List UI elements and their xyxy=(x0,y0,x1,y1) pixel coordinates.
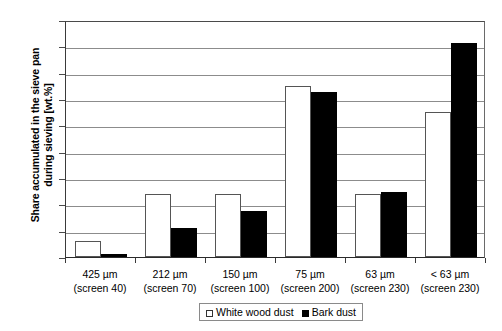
y-axis-title-line-1: Share accumulated in the sieve pan xyxy=(29,15,42,255)
legend-filled-square-icon xyxy=(302,310,309,317)
x-category-label-line-2: (screen 40) xyxy=(65,282,135,296)
x-category-label-line-1: 150 µm xyxy=(222,268,257,280)
legend-open-square-icon xyxy=(206,310,213,317)
x-category-label-line-1: 425 µm xyxy=(82,268,117,280)
gridline xyxy=(66,127,484,128)
bar-chart: Share accumulated in the sieve pan durin… xyxy=(0,0,502,331)
legend-entry: Bark dust xyxy=(302,306,356,318)
x-tick-mark xyxy=(205,258,206,263)
bar-white-wood-dust xyxy=(425,112,451,257)
x-category-label-line-2: (screen 230) xyxy=(415,282,485,296)
x-category-label: 75 µm(screen 200) xyxy=(275,268,345,295)
bar-white-wood-dust xyxy=(75,241,101,257)
x-tick-mark xyxy=(345,258,346,263)
x-category-label: < 63 µm(screen 230) xyxy=(415,268,485,295)
gridline xyxy=(66,233,484,234)
x-category-label-line-2: (screen 100) xyxy=(205,282,275,296)
bar-bark-dust xyxy=(311,92,337,257)
legend-entry: White wood dust xyxy=(206,306,294,318)
plot-area xyxy=(65,21,485,258)
legend-label: Bark dust xyxy=(312,306,356,318)
bar-bark-dust xyxy=(451,43,477,257)
x-tick-mark xyxy=(65,258,66,263)
gridline xyxy=(66,75,484,76)
x-tick-mark xyxy=(135,258,136,263)
gridline xyxy=(66,180,484,181)
bar-white-wood-dust xyxy=(145,194,171,257)
x-category-label: 63 µm(screen 230) xyxy=(345,268,415,295)
x-category-label-line-1: 63 µm xyxy=(365,268,394,280)
legend-label: White wood dust xyxy=(216,306,294,318)
gridline xyxy=(66,206,484,207)
bar-white-wood-dust xyxy=(355,194,381,257)
y-axis-title: Share accumulated in the sieve pan durin… xyxy=(29,15,55,255)
x-category-label-line-1: < 63 µm xyxy=(431,268,469,280)
x-category-label-line-1: 212 µm xyxy=(152,268,187,280)
bar-bark-dust xyxy=(241,211,267,257)
y-axis-title-line-2: during sieving [wt.%] xyxy=(42,15,55,255)
x-category-label: 212 µm(screen 70) xyxy=(135,268,205,295)
x-category-label-line-1: 75 µm xyxy=(295,268,324,280)
bar-bark-dust xyxy=(171,228,197,257)
x-category-label-line-2: (screen 70) xyxy=(135,282,205,296)
chart-legend: White wood dustBark dust xyxy=(199,303,363,321)
gridline xyxy=(66,48,484,49)
x-category-label: 150 µm(screen 100) xyxy=(205,268,275,295)
bar-bark-dust xyxy=(381,192,407,257)
bar-white-wood-dust xyxy=(215,194,241,257)
x-category-label-line-2: (screen 200) xyxy=(275,282,345,296)
x-tick-mark xyxy=(415,258,416,263)
x-tick-mark xyxy=(275,258,276,263)
bar-white-wood-dust xyxy=(285,86,311,257)
gridline xyxy=(66,101,484,102)
x-category-label: 425 µm(screen 40) xyxy=(65,268,135,295)
bar-bark-dust xyxy=(101,254,127,257)
x-category-label-line-2: (screen 230) xyxy=(345,282,415,296)
gridline xyxy=(66,154,484,155)
x-tick-mark xyxy=(485,258,486,263)
